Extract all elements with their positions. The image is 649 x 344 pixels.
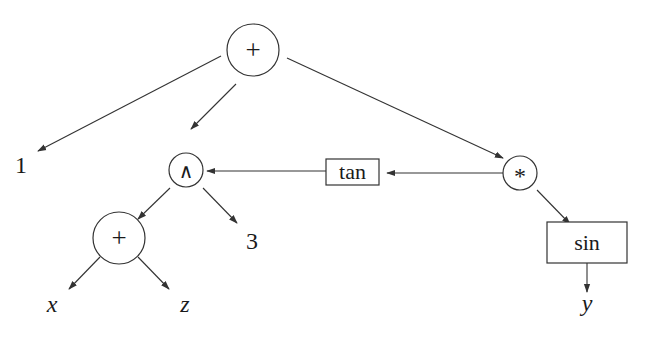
edge-times-to-sin [537, 190, 570, 224]
three-label: 3 [246, 228, 258, 254]
pow-label: ∧ [179, 160, 194, 182]
edge-pow-to-three [203, 188, 237, 223]
edge-root-to-pow [191, 84, 236, 129]
tan-label: tan [339, 159, 366, 184]
edge-root-to-one [38, 56, 221, 151]
edge-pow-to-inner-plus [138, 188, 170, 219]
y-label: y [580, 290, 593, 316]
root-plus-label: + [245, 35, 260, 65]
z-label: z [179, 291, 190, 317]
x-label: x [46, 291, 58, 317]
times-label: * [514, 163, 526, 189]
one-label: 1 [15, 152, 27, 178]
expression-tree-diagram: + 1 ∧ * tan 3 + x z sin y [0, 0, 649, 344]
inner-plus-label: + [111, 223, 126, 253]
sin-label: sin [574, 230, 600, 255]
edge-inner-plus-to-x [69, 257, 100, 289]
edge-inner-plus-to-z [138, 257, 169, 289]
edge-root-to-times [287, 58, 503, 158]
